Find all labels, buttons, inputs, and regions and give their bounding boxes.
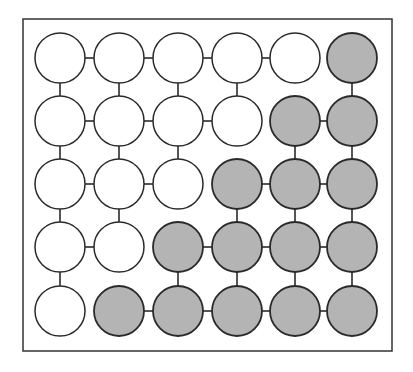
node-filled: [212, 286, 262, 336]
node-filled: [270, 286, 320, 336]
node-empty: [153, 96, 203, 146]
node-filled: [327, 286, 377, 336]
node-empty: [35, 222, 85, 272]
grid-graph-diagram: [0, 0, 413, 372]
node-empty: [270, 33, 320, 83]
node-filled: [327, 222, 377, 272]
node-empty: [35, 286, 85, 336]
node-filled: [153, 222, 203, 272]
node-filled: [270, 222, 320, 272]
node-filled: [94, 286, 144, 336]
node-empty: [212, 33, 262, 83]
node-empty: [94, 96, 144, 146]
node-empty: [153, 159, 203, 209]
node-filled: [327, 96, 377, 146]
node-filled: [327, 33, 377, 83]
node-filled: [327, 159, 377, 209]
node-empty: [212, 96, 262, 146]
node-empty: [153, 33, 203, 83]
node-filled: [212, 222, 262, 272]
node-empty: [94, 159, 144, 209]
node-filled: [212, 159, 262, 209]
node-empty: [35, 159, 85, 209]
node-empty: [94, 222, 144, 272]
node-filled: [153, 286, 203, 336]
node-empty: [35, 96, 85, 146]
node-empty: [35, 33, 85, 83]
node-empty: [94, 33, 144, 83]
node-filled: [270, 96, 320, 146]
node-filled: [270, 159, 320, 209]
